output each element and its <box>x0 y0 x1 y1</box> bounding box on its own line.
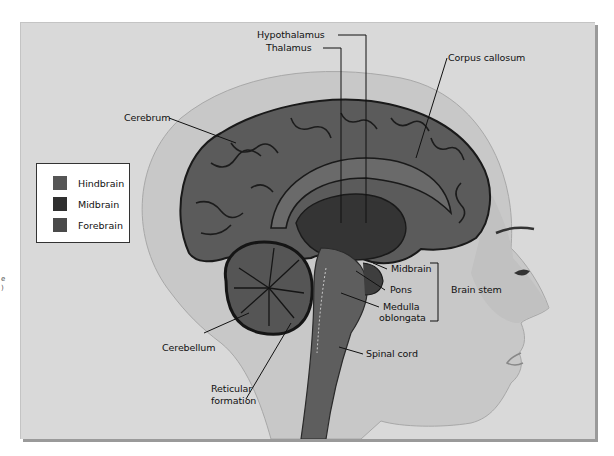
label-reticular-1: Reticular <box>211 383 252 394</box>
label-brain-stem: Brain stem <box>451 284 502 295</box>
forebrain-swatch <box>53 218 67 232</box>
legend-item-midbrain: Midbrain <box>53 197 119 211</box>
midbrain-swatch <box>53 197 67 211</box>
label-medulla-2: oblongata <box>379 312 426 323</box>
edge-mark: ) <box>1 284 4 292</box>
label-thalamus: Thalamus <box>266 42 312 53</box>
label-medulla-1: Medulla <box>383 301 420 312</box>
label-pons: Pons <box>390 284 412 295</box>
label-reticular-2: formation <box>211 395 256 406</box>
label-hypothalamus: Hypothalamus <box>257 29 325 40</box>
label-midbrain: Midbrain <box>391 263 431 274</box>
label-cerebrum: Cerebrum <box>124 112 170 123</box>
edge-mark: e <box>1 275 5 283</box>
legend-item-hindbrain: Hindbrain <box>53 176 124 190</box>
legend-label: Hindbrain <box>78 178 124 189</box>
label-corpus-callosum: Corpus callosum <box>448 52 525 63</box>
legend: Hindbrain Midbrain Forebrain <box>36 163 130 243</box>
label-cerebellum: Cerebellum <box>162 342 215 353</box>
label-spinal-cord: Spinal cord <box>366 348 418 359</box>
legend-label: Forebrain <box>78 220 123 231</box>
legend-label: Midbrain <box>78 199 119 210</box>
legend-item-forebrain: Forebrain <box>53 218 123 232</box>
hindbrain-swatch <box>53 176 67 190</box>
